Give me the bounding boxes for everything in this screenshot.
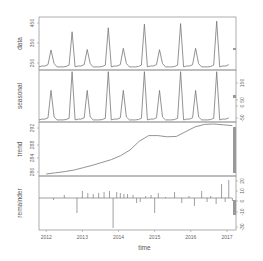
x-tick-label: 2016 — [185, 234, 196, 240]
y-tick-label: 284 — [29, 154, 35, 163]
y-tick-label: 10 — [239, 188, 245, 194]
panel-frame-trend — [39, 122, 236, 176]
x-axis-title: time — [138, 244, 151, 251]
x-tick-label: 2012 — [41, 234, 52, 240]
x-tick-label: 2017 — [221, 234, 232, 240]
y-tick-label: 250 — [29, 59, 35, 68]
series-trend — [46, 124, 232, 174]
scale-bar-remainder — [233, 200, 236, 215]
y-tick-label: -10 — [239, 208, 245, 215]
y-tick-label: -30 — [239, 223, 245, 230]
series-data — [39, 21, 229, 67]
y-tick-label: 292 — [29, 124, 35, 133]
y-tick-label: 150 — [239, 79, 245, 88]
scale-bar-data — [233, 48, 236, 50]
panel-frame-remainder — [39, 176, 236, 230]
scale-bar-seasonal — [233, 95, 236, 98]
y-tick-label: 0 — [239, 199, 245, 202]
y-tick-label: 0 — [239, 104, 245, 107]
y-tick-label: 288 — [29, 141, 35, 150]
series-seasonal — [39, 72, 229, 120]
panel-frame-data — [39, 17, 236, 70]
y-tick-label: 20 — [239, 178, 245, 184]
scale-bar-trend — [233, 127, 236, 173]
panel-label-seasonal: seasonal — [16, 82, 23, 109]
panel-label-remainder: remainder — [16, 188, 23, 218]
y-tick-label: 350 — [29, 39, 35, 48]
y-tick-label: 50 — [239, 97, 245, 103]
y-tick-label: -50 — [239, 114, 245, 121]
x-tick-label: 2013 — [77, 234, 88, 240]
x-tick-label: 2014 — [113, 234, 124, 240]
panel-label-trend: trend — [16, 141, 23, 156]
axes — [37, 23, 238, 232]
panel-frame-seasonal — [39, 70, 236, 122]
panel-label-data: data — [16, 37, 23, 50]
y-tick-label: 280 — [29, 168, 35, 177]
stl-decomposition-chart: 250350450data-50050150seasonal2802842882… — [0, 0, 263, 261]
panel-series — [39, 21, 232, 228]
y-tick-label: 450 — [29, 19, 35, 28]
x-tick-label: 2015 — [149, 234, 160, 240]
